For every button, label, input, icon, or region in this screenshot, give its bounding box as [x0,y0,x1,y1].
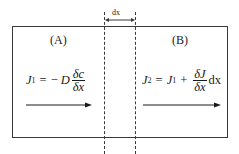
flux-equation-j1: J1 = − D δc δx [26,68,87,93]
region-a-label: (A) [50,33,67,48]
slab-right-boundary [135,12,136,154]
fraction-dc-dx: δc δx [72,68,85,93]
dx-double-arrow-icon [105,19,135,21]
dx-label: dx [112,8,120,17]
flux-arrow-a-icon [26,101,92,109]
diffusion-diagram: dx (A) (B) J1 = − D δc δx J2 = J1 + δJ δ… [0,0,239,154]
slab-left-boundary [104,12,105,154]
flux-equation-j2: J2 = J1 + δJ δx dx [142,68,221,93]
region-b-label: (B) [172,33,188,48]
flux-arrow-b-icon [143,101,221,109]
fraction-dj-dx: δJ δx [193,68,206,93]
